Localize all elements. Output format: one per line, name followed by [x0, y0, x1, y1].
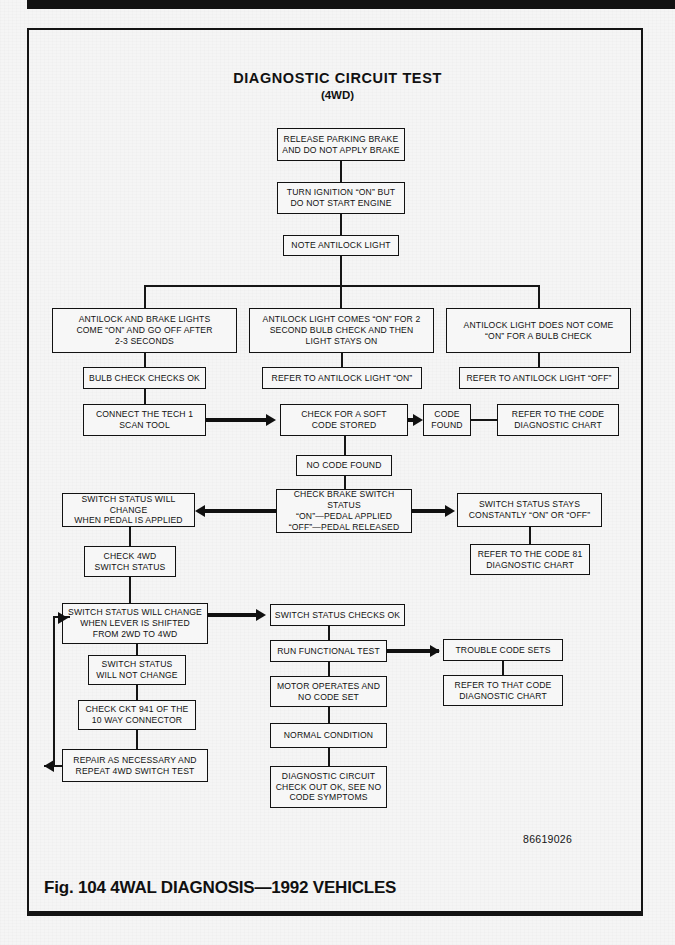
node-refer-to-that-code-chart: REFER TO THAT CODE DIAGNOSTIC CHART	[443, 675, 563, 706]
edge-n21-n22	[136, 685, 138, 700]
figure-page: DIAGNOSTIC CIRCUIT TEST (4WD) RELEASE PA…	[0, 0, 675, 945]
node-no-code-found: NO CODE FOUND	[296, 455, 392, 476]
edge-loopback-top-arrowhead	[58, 612, 68, 624]
edge-n26-n27	[502, 661, 504, 675]
edge-n5-n8	[341, 353, 343, 367]
edge-n29-n30	[328, 748, 330, 766]
node-connect-tech-1-scan-tool: CONNECT THE TECH 1 SCAN TOOL	[83, 404, 206, 436]
node-switch-status-will-change-lever: SWITCH STATUS WILL CHANGE WHEN LEVER IS …	[62, 603, 208, 644]
edge-n19-n20	[129, 577, 131, 603]
edge-n25-n28	[328, 662, 330, 676]
edge-n20-n24-line	[208, 613, 258, 617]
edge-n15-n17-line	[412, 509, 447, 513]
edge-n24-n25	[328, 626, 330, 640]
edge-n11-n12-arrowhead	[413, 414, 423, 426]
node-refer-code-81-diagnostic-chart: REFER TO THE CODE 81 DIAGNOSTIC CHART	[470, 544, 590, 575]
node-run-functional-test: RUN FUNCTIONAL TEST	[270, 640, 387, 662]
edge-n16-n19	[129, 527, 131, 546]
figure-caption: Fig. 104 4WAL DIAGNOSIS—1992 VEHICLES	[44, 878, 396, 898]
edge-bus-n6	[538, 285, 540, 308]
node-check-brake-switch-status: CHECK BRAKE SWITCH STATUS “ON”—PEDAL APP…	[276, 489, 412, 533]
node-motor-operates-no-code-set: MOTOR OPERATES AND NO CODE SET	[270, 676, 387, 707]
edge-n25-n26-arrowhead	[430, 645, 440, 657]
node-code-found: CODE FOUND	[423, 404, 471, 436]
edge-n1-n2	[340, 161, 342, 182]
edge-n12-n13	[471, 419, 497, 421]
edge-bus-n4	[144, 285, 146, 308]
caption-bottom-rule	[27, 911, 643, 916]
chart-subtitle: (4WD)	[0, 89, 675, 101]
edge-branch-bus	[144, 285, 539, 287]
edge-n3-bus-stem	[340, 256, 342, 308]
node-switch-status-checks-ok: SWITCH STATUS CHECKS OK	[270, 604, 405, 626]
node-turn-ignition-on: TURN IGNITION “ON” BUT DO NOT START ENGI…	[277, 182, 405, 214]
node-switch-status-will-not-change: SWITCH STATUS WILL NOT CHANGE	[88, 655, 186, 685]
edge-n15-n16-line	[205, 509, 276, 513]
node-note-antilock-light: NOTE ANTILOCK LIGHT	[283, 235, 399, 256]
node-check-for-soft-code-stored: CHECK FOR A SOFT CODE STORED	[280, 404, 408, 436]
node-check-4wd-switch-status: CHECK 4WD SWITCH STATUS	[84, 546, 176, 577]
edge-n10-n11-arrowhead	[266, 414, 276, 426]
edge-n20-n21	[136, 644, 138, 655]
node-refer-antilock-light-off: REFER TO ANTILOCK LIGHT “OFF”	[459, 367, 619, 389]
node-antilock-light-comes-on: ANTILOCK LIGHT COMES “ON” FOR 2 SECOND B…	[249, 308, 434, 353]
page-top-black-bar	[27, 0, 675, 9]
edge-n22-n23	[136, 730, 138, 749]
node-repair-as-necessary: REPAIR AS NECESSARY AND REPEAT 4WD SWITC…	[62, 749, 208, 782]
part-number-label: 86619026	[523, 833, 572, 845]
node-refer-to-code-diagnostic-chart: REFER TO THE CODE DIAGNOSTIC CHART	[497, 404, 619, 436]
node-antilock-and-brake-lights: ANTILOCK AND BRAKE LIGHTS COME “ON” AND …	[52, 308, 237, 353]
node-antilock-light-does-not-come-on: ANTILOCK LIGHT DOES NOT COME “ON” FOR A …	[446, 308, 631, 353]
edge-n11-n14	[344, 436, 346, 455]
node-diagnostic-circuit-check-out-ok: DIAGNOSTIC CIRCUIT CHECK OUT OK, SEE NO …	[270, 766, 387, 808]
edge-n15-n16-arrowhead	[195, 505, 205, 517]
node-check-ckt-941: CHECK CKT 941 OF THE 10 WAY CONNECTOR	[78, 700, 196, 730]
edge-n4-n7	[144, 353, 146, 367]
edge-n28-n29	[328, 707, 330, 723]
edge-n7-n10	[144, 389, 146, 404]
edge-n14-n15	[344, 476, 346, 489]
node-release-parking-brake: RELEASE PARKING BRAKE AND DO NOT APPLY B…	[277, 128, 405, 161]
node-bulb-check-checks-ok: BULB CHECK CHECKS OK	[83, 367, 206, 389]
node-trouble-code-sets: TROUBLE CODE SETS	[443, 639, 563, 661]
node-refer-antilock-light-on: REFER TO ANTILOCK LIGHT “ON”	[262, 367, 422, 389]
node-switch-status-stays-constantly: SWITCH STATUS STAYS CONSTANTLY “ON” OR “…	[457, 493, 602, 527]
node-switch-status-will-change-pedal: SWITCH STATUS WILL CHANGE WHEN PEDAL IS …	[62, 493, 195, 527]
node-normal-condition: NORMAL CONDITION	[270, 723, 387, 748]
edge-n6-n9	[538, 353, 540, 367]
edge-n15-n17-arrowhead	[445, 505, 455, 517]
edge-n20-n24-arrowhead	[256, 609, 266, 621]
edge-n10-n11-line	[206, 418, 268, 422]
edge-loopback-riser	[53, 616, 55, 766]
edge-n17-n18	[529, 527, 531, 544]
chart-title: DIAGNOSTIC CIRCUIT TEST	[0, 70, 675, 86]
edge-n2-n3	[340, 214, 342, 235]
